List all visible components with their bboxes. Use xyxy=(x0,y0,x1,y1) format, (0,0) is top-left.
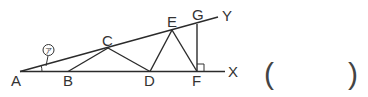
segment-de xyxy=(150,30,172,72)
answer-field[interactable] xyxy=(280,58,348,88)
segment-ef xyxy=(172,30,197,72)
label-f: F xyxy=(192,72,201,89)
angle-arc xyxy=(41,66,42,72)
segment-bc xyxy=(68,48,108,72)
label-c: C xyxy=(102,32,113,49)
label-x: X xyxy=(228,63,238,80)
label-a: A xyxy=(11,72,21,89)
label-d: D xyxy=(144,72,155,89)
answer-open-paren: ( xyxy=(264,57,274,90)
segment-cd xyxy=(108,48,150,72)
label-b: B xyxy=(63,72,73,89)
label-y: Y xyxy=(222,7,232,24)
angle-label: ア xyxy=(45,47,52,55)
geometry-diagram: ア A B C D E F G X Y ( ) xyxy=(0,0,368,97)
label-g: G xyxy=(192,6,204,23)
label-e: E xyxy=(167,13,177,30)
answer-close-paren: ) xyxy=(348,57,358,90)
right-angle-marker xyxy=(197,64,204,72)
